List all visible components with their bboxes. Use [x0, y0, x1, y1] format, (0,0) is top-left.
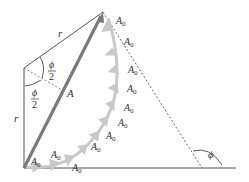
radius-top-label: r — [58, 27, 63, 39]
half-angle-top-arc — [40, 57, 44, 78]
half-angle-top-den: 2 — [49, 71, 54, 82]
svg-text:A0: A0 — [90, 141, 101, 154]
svg-text:A0: A0 — [123, 36, 134, 49]
svg-text:A0: A0 — [105, 130, 116, 143]
resultant-label: A — [66, 87, 74, 99]
svg-text:A0: A0 — [123, 102, 134, 115]
half-angle-bottom-num: ϕ — [32, 87, 37, 98]
half-angle-top-num: ϕ — [49, 59, 54, 70]
phasor-diagram: r r ϕ 2 ϕ 2 A ϕ A0 A0 A0 A0 A0 A0 A0 A0 … — [0, 0, 249, 182]
svg-text:A0: A0 — [115, 15, 126, 28]
phi-angle-label: ϕ — [208, 148, 214, 160]
radius-left-label: r — [14, 112, 19, 124]
svg-text:A0: A0 — [127, 64, 138, 77]
half-angle-bottom-arc — [25, 80, 41, 86]
svg-text:A0: A0 — [117, 117, 128, 130]
half-angle-bottom-den: 2 — [32, 99, 37, 110]
bisector-dashed-line — [24, 68, 64, 91]
top-radius-line — [24, 12, 103, 68]
svg-text:A0: A0 — [71, 162, 82, 175]
svg-text:A0: A0 — [126, 83, 137, 96]
